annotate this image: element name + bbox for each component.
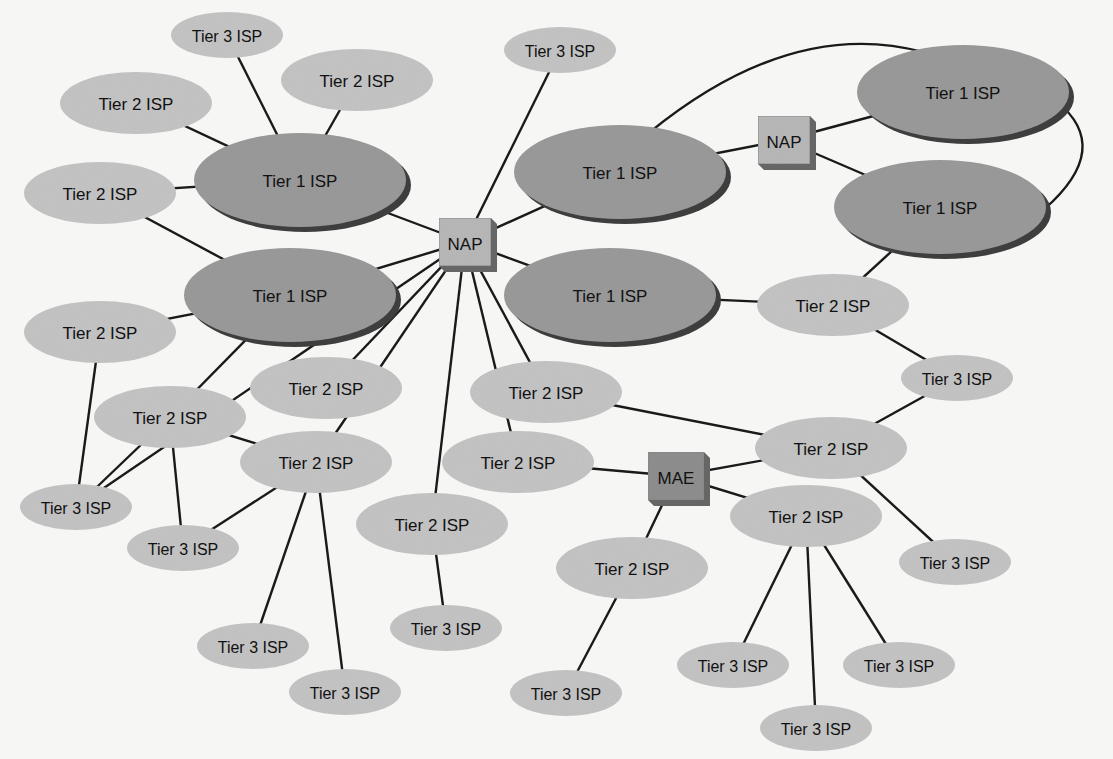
tier2-label: Tier 2 ISP <box>133 409 208 428</box>
node-tier3-t3j: Tier 3 ISP <box>677 642 789 688</box>
tier2-label: Tier 2 ISP <box>595 560 670 579</box>
tier2-label: Tier 2 ISP <box>289 380 364 399</box>
node-tier3-t3d: Tier 3 ISP <box>20 484 132 530</box>
tier3-label: Tier 3 ISP <box>698 658 769 675</box>
node-tier2-t2k: Tier 2 ISP <box>755 417 907 479</box>
nap-label: NAP <box>448 235 483 254</box>
tier1-label: Tier 1 ISP <box>583 164 658 183</box>
connection-line-nap1-t2j <box>465 242 518 462</box>
tier1-label: Tier 1 ISP <box>903 199 978 218</box>
tier3-label: Tier 3 ISP <box>218 639 289 656</box>
node-nap-nap1: NAP <box>439 218 497 272</box>
node-tier1-t1e: Tier 1 ISP <box>184 248 401 347</box>
tier3-label: Tier 3 ISP <box>148 541 219 558</box>
tier3-label: Tier 3 ISP <box>525 43 596 60</box>
node-tier3-t3h: Tier 3 ISP <box>197 623 309 669</box>
node-tier3-t3k: Tier 3 ISP <box>843 642 955 688</box>
node-tier1-t1c: Tier 1 ISP <box>857 45 1074 144</box>
node-tier2-t2c: Tier 2 ISP <box>24 162 176 224</box>
node-tier1-t1a: Tier 1 ISP <box>194 133 411 232</box>
node-tier2-t2n: Tier 2 ISP <box>556 537 708 599</box>
mae-label: MAE <box>658 469 695 488</box>
tier3-label: Tier 3 ISP <box>411 621 482 638</box>
node-tier2-t2f: Tier 2 ISP <box>94 386 246 448</box>
tier3-label: Tier 3 ISP <box>920 555 991 572</box>
tier3-label: Tier 3 ISP <box>781 721 852 738</box>
node-tier2-t2e: Tier 2 ISP <box>757 274 909 336</box>
node-tier1-t1f: Tier 1 ISP <box>504 248 721 347</box>
node-tier2-t2j: Tier 2 ISP <box>442 431 594 493</box>
isp-hierarchy-diagram: Tier 3 ISPTier 2 ISPTier 2 ISPTier 3 ISP… <box>0 0 1113 759</box>
nap-label: NAP <box>767 133 802 152</box>
node-tier3-t3g: Tier 3 ISP <box>390 605 502 651</box>
node-tier2-t2h: Tier 2 ISP <box>470 361 622 423</box>
isp-nodes: Tier 3 ISPTier 2 ISPTier 2 ISPTier 3 ISP… <box>20 12 1074 751</box>
node-tier3-t3b: Tier 3 ISP <box>504 27 616 73</box>
node-tier2-t2d: Tier 2 ISP <box>24 301 176 363</box>
tier2-label: Tier 2 ISP <box>63 324 138 343</box>
node-tier1-t1d: Tier 1 ISP <box>834 160 1051 259</box>
tier2-label: Tier 2 ISP <box>63 185 138 204</box>
tier1-label: Tier 1 ISP <box>573 287 648 306</box>
tier2-label: Tier 2 ISP <box>796 297 871 316</box>
connection-line-t2i-t3i <box>316 462 345 692</box>
node-tier3-t3l: Tier 3 ISP <box>760 705 872 751</box>
tier2-label: Tier 2 ISP <box>99 95 174 114</box>
node-tier2-t2g: Tier 2 ISP <box>250 357 402 419</box>
node-tier3-t3f: Tier 3 ISP <box>899 539 1011 585</box>
node-tier3-t3i: Tier 3 ISP <box>289 669 401 715</box>
node-tier3-t3c: Tier 3 ISP <box>901 355 1013 401</box>
tier2-label: Tier 2 ISP <box>481 454 556 473</box>
tier3-label: Tier 3 ISP <box>310 685 381 702</box>
tier3-label: Tier 3 ISP <box>922 371 993 388</box>
node-tier2-t2i: Tier 2 ISP <box>240 431 392 493</box>
tier2-label: Tier 2 ISP <box>320 72 395 91</box>
tier2-label: Tier 2 ISP <box>509 384 584 403</box>
node-tier1-t1b: Tier 1 ISP <box>514 125 731 224</box>
node-tier2-t2a: Tier 2 ISP <box>60 72 212 134</box>
tier2-label: Tier 2 ISP <box>279 454 354 473</box>
node-nap-nap2: NAP <box>758 116 816 170</box>
tier3-label: Tier 3 ISP <box>192 28 263 45</box>
tier2-label: Tier 2 ISP <box>395 516 470 535</box>
tier3-label: Tier 3 ISP <box>531 686 602 703</box>
node-tier2-t2b: Tier 2 ISP <box>281 49 433 111</box>
tier2-label: Tier 2 ISP <box>769 508 844 527</box>
node-tier2-t2m: Tier 2 ISP <box>730 485 882 547</box>
tier3-label: Tier 3 ISP <box>864 658 935 675</box>
node-tier3-t3e: Tier 3 ISP <box>127 525 239 571</box>
node-mae-mae: MAE <box>648 452 710 506</box>
tier2-label: Tier 2 ISP <box>794 440 869 459</box>
node-tier3-t3a: Tier 3 ISP <box>171 12 283 58</box>
node-tier2-t2l: Tier 2 ISP <box>356 493 508 555</box>
tier1-label: Tier 1 ISP <box>253 287 328 306</box>
tier1-label: Tier 1 ISP <box>926 84 1001 103</box>
tier3-label: Tier 3 ISP <box>41 500 112 517</box>
node-tier3-t3m: Tier 3 ISP <box>510 670 622 716</box>
connection-line-t2m-t3l <box>806 516 816 728</box>
tier1-label: Tier 1 ISP <box>263 172 338 191</box>
